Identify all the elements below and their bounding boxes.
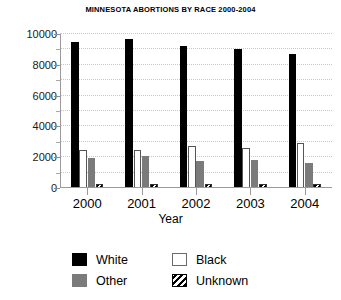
legend-entry-black[interactable]: Black: [172, 253, 312, 267]
y-axis-line: [60, 34, 61, 188]
x-axis-tick-label: 2003: [236, 196, 265, 211]
y-axis-minor-tick: [56, 49, 60, 50]
bar-group-2004: [289, 34, 321, 188]
y-axis-minor-tick: [56, 80, 60, 81]
x-axis-tick: [196, 188, 197, 195]
legend-swatch-unknown-icon: [172, 274, 187, 287]
y-axis-tick: [54, 96, 60, 97]
bar-group-2000: [71, 34, 103, 188]
legend-label: Black: [196, 253, 227, 267]
bar-white-2000: [71, 42, 79, 188]
bar-other-2002: [196, 161, 204, 188]
x-axis-tick: [142, 188, 143, 195]
x-axis-tick-label: 2000: [73, 196, 102, 211]
bar-group-2001: [125, 34, 157, 188]
chart-title: MINNESOTA ABORTIONS BY RACE 2000-2004: [0, 5, 341, 14]
bar-white-2002: [180, 46, 188, 188]
legend-swatch-white-icon: [72, 253, 87, 266]
bar-chart: MINNESOTA ABORTIONS BY RACE 2000-2004 02…: [0, 0, 341, 300]
y-axis-minor-tick: [56, 173, 60, 174]
legend-swatch-other-icon: [72, 274, 87, 287]
bar-other-2003: [251, 160, 259, 188]
bar-white-2003: [234, 49, 242, 188]
legend-entry-other[interactable]: Other: [72, 274, 172, 288]
bar-other-2001: [142, 156, 150, 188]
x-axis-tick-label: 2001: [127, 196, 156, 211]
x-axis-title: Year: [0, 212, 341, 226]
bar-black-2004: [297, 143, 305, 188]
y-axis-minor-tick: [56, 111, 60, 112]
legend-label: White: [96, 253, 128, 267]
x-axis-tick: [87, 188, 88, 195]
plot-area: [60, 34, 332, 188]
bar-black-2000: [79, 150, 87, 188]
x-axis-tick-label: 2002: [182, 196, 211, 211]
bar-group-2002: [180, 34, 212, 188]
x-axis-tick-label: 2004: [290, 196, 319, 211]
legend-swatch-black-icon: [172, 253, 187, 266]
y-axis-minor-tick: [56, 142, 60, 143]
bar-black-2001: [134, 150, 142, 189]
bar-black-2002: [188, 146, 196, 188]
bar-white-2001: [125, 39, 133, 188]
y-axis-tick: [54, 65, 60, 66]
x-axis-tick: [305, 188, 306, 195]
legend-entry-unknown[interactable]: Unknown: [172, 274, 312, 288]
y-axis-tick: [54, 157, 60, 158]
chart-legend: WhiteBlackOtherUnknown: [72, 249, 312, 291]
bar-black-2003: [242, 148, 250, 188]
legend-label: Unknown: [196, 274, 248, 288]
y-axis-tick: [54, 188, 60, 189]
legend-entry-white[interactable]: White: [72, 253, 172, 267]
legend-label: Other: [96, 274, 127, 288]
bar-group-2003: [234, 34, 266, 188]
bar-white-2004: [289, 54, 297, 188]
y-axis-tick: [54, 126, 60, 127]
x-axis-tick: [250, 188, 251, 195]
y-axis-tick: [54, 34, 60, 35]
bar-other-2004: [305, 163, 313, 188]
bar-other-2000: [88, 158, 96, 188]
y-axis-tick-label: 10000: [26, 28, 57, 40]
